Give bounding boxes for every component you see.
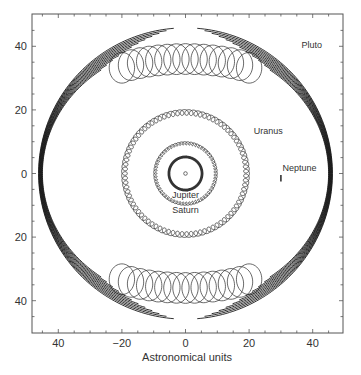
y-tick-label: 20: [15, 104, 27, 116]
path-pluto-loop: [109, 52, 134, 83]
path-pluto-loop: [200, 271, 225, 302]
path-pluto-loop: [136, 46, 161, 77]
path-pluto-loop: [109, 264, 134, 295]
x-axis-tick-labels: 40 −20 0 20 40: [52, 337, 319, 349]
path-pluto-loop: [227, 267, 252, 298]
y-tick-label: 0: [21, 168, 27, 180]
center-marker: [184, 172, 188, 176]
path-jupiter: [168, 156, 203, 191]
path-pluto-loop: [218, 269, 243, 300]
y-axis-tick-labels: 40 20 0 20 40: [15, 40, 27, 306]
path-pluto-loop: [209, 46, 234, 77]
path-pluto-loop: [200, 45, 225, 76]
path-uranus: [122, 110, 250, 238]
y-tick-label: 20: [15, 231, 27, 243]
path-pluto-loop: [209, 270, 234, 301]
path-pluto-loop: [136, 270, 161, 301]
path-pluto-loop: [118, 50, 143, 81]
planet-paths: [39, 28, 333, 318]
path-pluto-loop: [146, 271, 171, 302]
path-pluto-loop: [118, 267, 143, 298]
x-tick-label: 20: [243, 337, 255, 349]
x-tick-label: −20: [113, 337, 132, 349]
x-axis-title: Astronomical units: [142, 351, 232, 363]
x-tick-label: 40: [52, 337, 64, 349]
path-pluto-loop: [227, 50, 252, 81]
label-pluto: Pluto: [302, 40, 323, 50]
x-tick-label: 0: [182, 337, 188, 349]
solar-system-geocentric-chart: Jupiter Saturn Uranus Neptune Pluto 40 −…: [0, 0, 361, 375]
path-pluto-loop: [218, 48, 243, 79]
label-saturn: Saturn: [172, 205, 199, 215]
x-tick-label: 40: [307, 337, 319, 349]
path-pluto-loop: [127, 48, 152, 79]
path-pluto-loop: [236, 264, 261, 295]
path-pluto-loop: [127, 269, 152, 300]
label-jupiter: Jupiter: [172, 190, 199, 200]
y-tick-label: 40: [15, 295, 27, 307]
path-pluto-loop: [236, 52, 261, 83]
path-pluto-loop: [146, 45, 171, 76]
label-uranus: Uranus: [254, 126, 284, 136]
y-tick-label: 40: [15, 40, 27, 52]
label-neptune: Neptune: [282, 163, 316, 173]
